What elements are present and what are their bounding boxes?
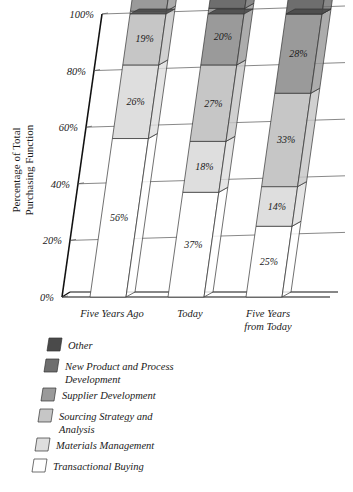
legend-item-4[interactable]: Materials Management	[35, 438, 155, 451]
legend-label-0: Other	[68, 340, 93, 351]
legend-swatch-3	[38, 409, 53, 422]
y-tick-label-40%: 40%	[51, 179, 71, 190]
bar-segment-value-1-2: 27%	[204, 98, 222, 109]
legend-label-5: Transactional Buying	[53, 461, 144, 472]
bar-segment-value-2-0: 25%	[260, 256, 278, 267]
legend-label-3: Sourcing Strategy and	[59, 411, 153, 422]
legend-item-2[interactable]: Supplier Development	[41, 388, 157, 401]
legend-label-2: Supplier Development	[62, 390, 157, 401]
legend-label-4: Materials Management	[55, 440, 155, 451]
category-label-2: Five Years	[245, 308, 290, 319]
bar-segment-value-0-0: 56%	[110, 212, 128, 223]
y-tick-label-0%: 0%	[40, 292, 54, 303]
category-label-2-line2: from Today	[244, 321, 292, 332]
bar-group-1: 37%18%27%20%15%5%	[168, 0, 262, 297]
legend-label-1-line2: Development	[64, 374, 121, 385]
bar-segment-1-4[interactable]	[209, 0, 251, 8]
legend-label-3-line2: Analysis	[58, 424, 95, 435]
y-tick-label-60%: 60%	[59, 122, 79, 133]
bar-segment-value-1-0: 37%	[183, 239, 202, 250]
category-label-1: Today	[177, 308, 203, 319]
legend-item-5[interactable]: Transactional Buying	[32, 459, 144, 472]
legend-item-1[interactable]: New Product and ProcessDevelopment	[44, 359, 174, 385]
bar-segment-value-2-2: 33%	[276, 134, 295, 145]
chart-canvas: 0%20%40%60%80%100%Percentage of TotalPur…	[0, 0, 353, 492]
bar-segment-value-1-1: 18%	[195, 161, 213, 172]
bar-group-2: 25%14%33%28%19%8%	[246, 0, 342, 297]
bar-segment-value-0-2: 19%	[135, 33, 153, 44]
bar-segment-value-2-1: 14%	[268, 201, 286, 212]
legend-swatch-1	[44, 359, 59, 372]
y-axis-title-line-2: Purchasing Function	[23, 124, 35, 215]
legend-swatch-5	[32, 459, 47, 472]
bar-segment-value-0-1: 26%	[126, 96, 144, 107]
category-label-0: Five Years Ago	[79, 308, 144, 319]
y-axis-title-line-1: Percentage of Total	[10, 127, 22, 212]
legend-swatch-0	[47, 338, 62, 351]
stacked-bar-chart: 0%20%40%60%80%100%Percentage of TotalPur…	[0, 0, 353, 492]
y-tick-label-80%: 80%	[67, 66, 87, 77]
legend-item-0[interactable]: Other	[47, 338, 93, 351]
bar-group-0: 56%26%19%13%13%3%	[90, 0, 187, 297]
legend-item-3[interactable]: Sourcing Strategy andAnalysis	[38, 409, 153, 435]
legend-swatch-4	[35, 438, 50, 451]
y-axis-title: Percentage of TotalPurchasing Function	[10, 124, 35, 215]
bar-segment-value-1-3: 20%	[214, 31, 232, 42]
legend-swatch-2	[41, 388, 56, 401]
y-tick-label-20%: 20%	[43, 235, 63, 246]
legend-label-1: New Product and Process	[64, 361, 174, 372]
bar-segment-value-2-3: 28%	[289, 48, 307, 59]
y-tick-label-100%: 100%	[70, 9, 95, 20]
